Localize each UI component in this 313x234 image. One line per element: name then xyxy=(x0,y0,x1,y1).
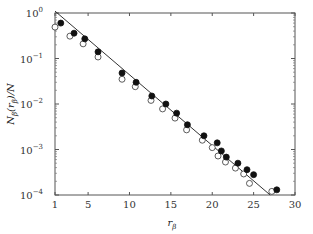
data-point xyxy=(174,110,180,116)
x-tick-label: 25 xyxy=(247,199,260,210)
x-tick-label: 20 xyxy=(206,199,219,210)
data-point xyxy=(251,172,257,178)
x-tick-label: 15 xyxy=(164,199,177,210)
data-point xyxy=(133,79,139,85)
y-tick-label: 100 xyxy=(26,6,43,19)
data-point xyxy=(52,24,58,30)
data-point xyxy=(209,145,215,151)
series-open-circles xyxy=(52,24,275,194)
y-tick-label: 10−1 xyxy=(20,52,43,65)
data-point xyxy=(58,20,64,26)
data-point xyxy=(149,93,155,99)
data-point xyxy=(119,76,125,82)
data-point xyxy=(274,187,280,193)
x-tick-label: 5 xyxy=(85,199,91,210)
x-tick-label: 1 xyxy=(52,199,58,210)
data-point xyxy=(95,49,101,55)
data-point xyxy=(246,180,252,186)
data-point xyxy=(201,133,207,139)
data-point xyxy=(163,101,169,107)
data-point xyxy=(184,122,190,128)
x-axis-label: rβ xyxy=(168,217,177,231)
data-point xyxy=(223,154,229,160)
data-point xyxy=(218,148,224,154)
y-tick-label: 10−4 xyxy=(20,188,44,201)
y-axis-label: Nβ(rβ)/N xyxy=(5,82,19,126)
data-point xyxy=(71,30,77,36)
series-filled-circles xyxy=(58,20,280,193)
data-point xyxy=(82,36,88,42)
x-tick-label: 30 xyxy=(289,199,302,210)
data-point xyxy=(244,167,250,173)
data-point xyxy=(119,70,125,76)
x-tick-label: 10 xyxy=(123,199,136,210)
plot-frame xyxy=(55,13,295,195)
y-tick-label: 10−2 xyxy=(20,97,43,110)
data-point xyxy=(214,140,220,146)
chart: 151015202530 10010−110−210−310−4 rβ Nβ(r… xyxy=(0,0,313,234)
y-tick-label: 10−3 xyxy=(20,143,43,156)
data-point xyxy=(235,160,241,166)
